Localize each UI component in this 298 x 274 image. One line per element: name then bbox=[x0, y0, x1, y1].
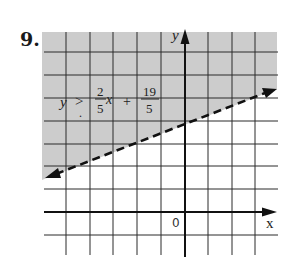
inequality-lhs: y bbox=[58, 94, 67, 110]
inequality-variable: x bbox=[105, 92, 113, 107]
y-axis-label: y bbox=[170, 27, 179, 43]
inequality-dot: . bbox=[79, 106, 82, 120]
slope-numerator: 2 bbox=[97, 84, 104, 99]
origin-label: 0 bbox=[172, 216, 180, 230]
intercept-numerator: 19 bbox=[143, 84, 156, 99]
x-axis-label: x bbox=[266, 215, 274, 231]
inequality-plus: + bbox=[123, 94, 131, 109]
intercept-denominator: 5 bbox=[146, 101, 153, 116]
inequality-graph: y x 0 y > . 2 5 x + 19 5 bbox=[0, 0, 298, 274]
boundary-right-arrow-icon bbox=[262, 88, 277, 98]
slope-denominator: 5 bbox=[97, 101, 104, 116]
